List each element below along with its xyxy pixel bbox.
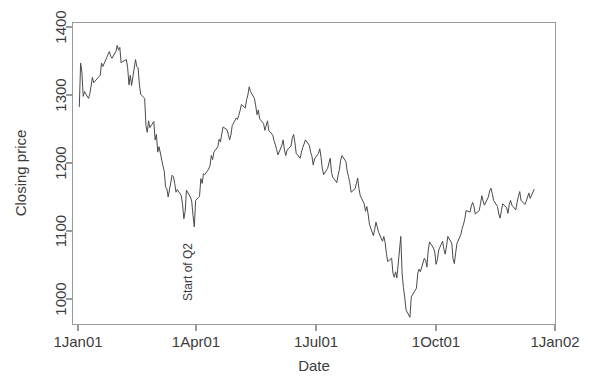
closing-price-line — [79, 45, 534, 317]
x-tick-label-1jul01: 1Jul01 — [294, 333, 338, 350]
x-tick-label-1apr01: 1Apr01 — [172, 333, 220, 350]
chart-page: 1400 1300 1200 1100 1000 1Jan01 1Apr01 1… — [0, 0, 592, 378]
closing-price-line-chart: 1400 1300 1200 1100 1000 1Jan01 1Apr01 1… — [0, 0, 592, 378]
x-axis-tick-labels: 1Jan01 1Apr01 1Jul01 1Oct01 1Jan02 — [53, 333, 579, 350]
x-tick-label-1jan02: 1Jan02 — [530, 333, 579, 350]
x-tick-label-1oct01: 1Oct01 — [412, 333, 460, 350]
x-axis-ticks — [78, 325, 555, 331]
y-tick-label-1000: 1000 — [52, 282, 69, 315]
plot-area-border — [73, 23, 556, 325]
y-tick-label-1400: 1400 — [52, 10, 69, 43]
y-tick-label-1200: 1200 — [52, 146, 69, 179]
y-tick-label-1300: 1300 — [52, 78, 69, 111]
y-axis-tick-labels: 1400 1300 1200 1100 1000 — [52, 10, 69, 315]
x-tick-label-1jan01: 1Jan01 — [53, 333, 102, 350]
x-axis-title: Date — [298, 357, 330, 374]
annotation-start-of-q2: Start of Q2 — [181, 243, 195, 301]
y-tick-label-1100: 1100 — [52, 215, 69, 247]
y-axis-title: Closing price — [12, 130, 29, 217]
